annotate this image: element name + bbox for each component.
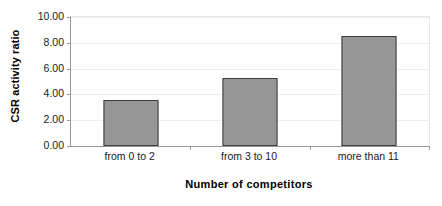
bar-chart: CSR activity ratio 0.002.004.006.008.001… xyxy=(0,0,442,206)
y-axis-tick-label: 0.00 xyxy=(44,139,64,151)
bar-slot xyxy=(190,17,309,146)
x-axis-title: Number of competitors xyxy=(70,178,428,190)
bar xyxy=(103,100,158,146)
y-axis-tick-label-group: 0.002.004.006.008.0010.00 xyxy=(26,10,68,150)
y-axis-tick-label: 10.00 xyxy=(38,10,64,22)
y-axis-tick-label: 2.00 xyxy=(44,113,64,125)
bar-slot xyxy=(71,17,190,146)
bar xyxy=(222,78,277,146)
x-axis-tick-label: from 0 to 2 xyxy=(105,150,155,162)
x-axis-tick-label: more than 11 xyxy=(338,150,399,162)
y-axis-tickmark xyxy=(67,146,71,147)
y-axis-tick-label: 4.00 xyxy=(44,87,64,99)
bar xyxy=(342,36,397,146)
plot-area xyxy=(70,16,430,147)
x-axis-tick-label-group: from 0 to 2from 3 to 10more than 11 xyxy=(70,150,428,170)
y-axis-tick-label: 6.00 xyxy=(44,62,64,74)
y-axis-tick-label: 8.00 xyxy=(44,36,64,48)
x-axis-tickmark xyxy=(429,146,430,150)
bar-group xyxy=(71,17,429,146)
bar-slot xyxy=(310,17,429,146)
y-axis-title-text: CSR activity ratio xyxy=(9,30,21,123)
x-axis-tick-label: from 3 to 10 xyxy=(221,150,277,162)
